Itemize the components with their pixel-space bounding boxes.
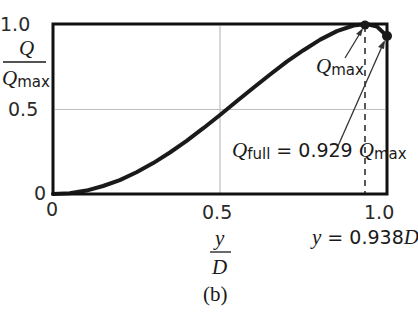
x-axis-label-denominator: D xyxy=(211,255,227,279)
qmax-arrowhead xyxy=(356,28,363,36)
y-tick-1.0: 1.0 xyxy=(0,13,30,35)
chart: 1.0 0.5 0 Q Qmax 0 0.5 1.0 y = 0.938D y … xyxy=(0,0,418,312)
y-axis-label-denominator: Qmax xyxy=(2,66,50,91)
x-tick-1.0: 1.0 xyxy=(364,201,394,223)
panel-label: (b) xyxy=(203,282,228,306)
y-tick-0.5: 0.5 xyxy=(8,98,38,120)
qmax-annotation: Qmax xyxy=(316,54,364,79)
x-tick-0: 0 xyxy=(46,198,58,220)
x-tick-0.5: 0.5 xyxy=(202,201,232,223)
qfull-point xyxy=(382,31,392,41)
y-axis-label-numerator: Q xyxy=(19,36,34,60)
qmax-point xyxy=(361,21,370,30)
qfull-arrowhead xyxy=(378,40,385,49)
qfull-annotation: Qfull = 0.929 Qmax xyxy=(232,138,407,163)
y-tick-0: 0 xyxy=(34,182,46,204)
ymax-label: y = 0.938D xyxy=(310,225,418,249)
x-axis-label-numerator: y xyxy=(213,226,225,250)
